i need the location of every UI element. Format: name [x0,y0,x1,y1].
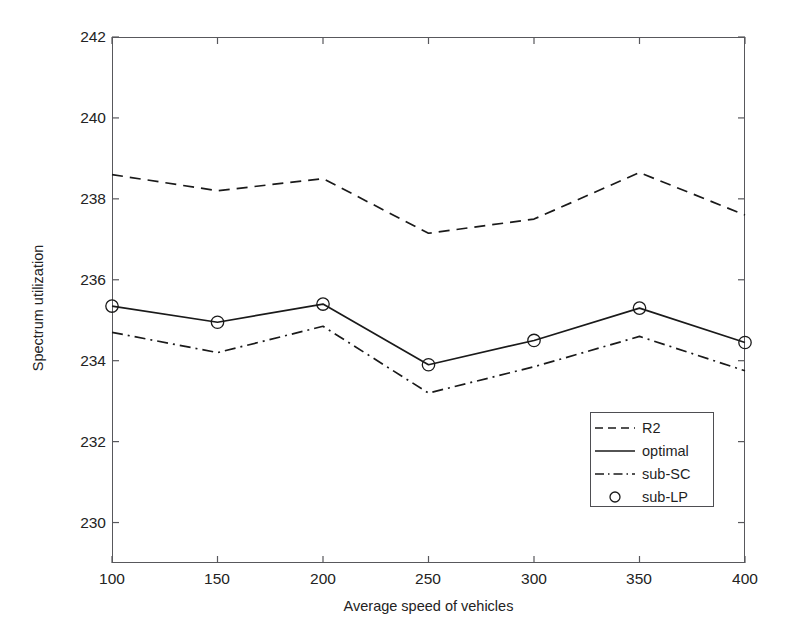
x-tick-200: 200 [288,570,358,588]
x-tick-250: 250 [393,570,463,588]
x-tick-300: 300 [499,570,569,588]
figure-canvas: 242 240 238 236 234 232 230 100 150 200 … [0,0,789,641]
legend-sample-dashed-icon [591,417,639,439]
legend-entry-r2: R2 [591,416,715,439]
legend-entry-sub-lp: sub-LP [591,485,715,508]
x-tick-400: 400 [710,570,780,588]
legend-label-sub-lp: sub-LP [639,489,688,505]
legend-entry-optimal: optimal [591,439,715,462]
legend-entry-sub-sc: sub-SC [591,462,715,485]
legend-sample-dashdot-icon [591,463,639,485]
x-tick-100: 100 [77,570,147,588]
x-axis-label: Average speed of vehicles [112,598,745,614]
legend-sample-solid-icon [591,440,639,462]
legend-box: R2 optimal sub-SC sub-LP [590,412,714,507]
legend-label-sub-sc: sub-SC [639,466,690,482]
legend-sample-circle-icon [591,486,639,508]
x-tick-150: 150 [182,570,252,588]
legend-label-optimal: optimal [639,443,689,459]
x-tick-350: 350 [604,570,674,588]
legend-label-r2: R2 [639,420,661,436]
y-axis-label: Spectrum utilization [30,208,46,408]
